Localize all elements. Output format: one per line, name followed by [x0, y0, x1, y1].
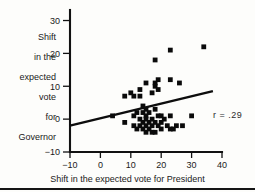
data-point — [150, 90, 155, 95]
scatterplot-figure: −100102030 −10010203040 Shiftin theexpec… — [0, 0, 255, 192]
data-point — [134, 110, 139, 115]
data-point — [168, 113, 173, 118]
data-point — [122, 94, 127, 99]
y-axis-label-line: Shift — [38, 32, 56, 42]
correlation-annotation: r = .29 — [213, 110, 242, 120]
data-point — [144, 81, 149, 86]
y-axis-label-line: Governor — [18, 132, 56, 142]
y-tick-label: −10 — [45, 147, 60, 157]
y-axis-label-line: expected — [19, 72, 56, 82]
x-tick-label: 40 — [217, 160, 227, 170]
data-point — [174, 123, 179, 128]
data-point — [147, 110, 152, 115]
data-point — [153, 58, 158, 63]
x-axis-ticks: −10010203040 — [62, 152, 227, 170]
data-point — [156, 77, 161, 82]
x-tick-label: −10 — [62, 160, 77, 170]
data-point — [122, 120, 127, 125]
data-point — [153, 130, 158, 135]
data-point — [153, 107, 158, 112]
x-tick-label: 10 — [126, 160, 136, 170]
x-axis-label: Shift in the expected vote for President — [0, 174, 255, 184]
y-axis-label-line: in the — [34, 52, 56, 62]
data-point — [189, 113, 194, 118]
bottom-rule — [0, 188, 255, 190]
x-tick-label: 0 — [98, 160, 103, 170]
y-tick-label: 30 — [50, 16, 60, 26]
data-point — [138, 87, 143, 92]
data-point — [162, 117, 167, 122]
data-point — [131, 94, 136, 99]
data-point — [180, 123, 185, 128]
data-point — [177, 81, 182, 86]
x-tick-label: 20 — [156, 160, 166, 170]
data-points — [110, 44, 206, 134]
data-point — [201, 44, 206, 49]
x-tick-label: 30 — [187, 160, 197, 170]
data-point — [138, 94, 143, 99]
y-axis-label-line: vote — [39, 92, 56, 102]
data-point — [168, 48, 173, 53]
y-axis-label-line: for — [45, 112, 56, 122]
data-point — [156, 87, 161, 92]
y-tick-label: 10 — [50, 82, 60, 92]
data-point — [110, 113, 115, 118]
data-point — [168, 77, 173, 82]
data-point — [159, 127, 164, 132]
